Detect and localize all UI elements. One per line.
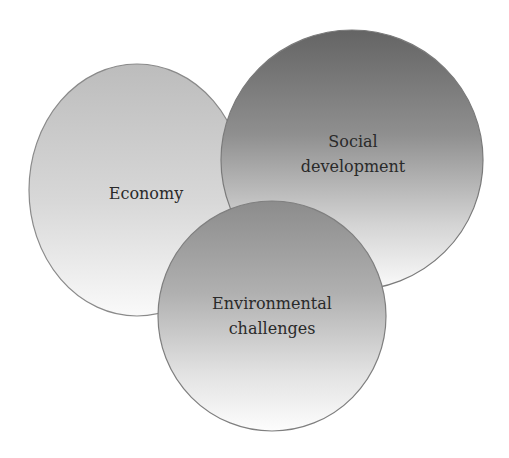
environmental-challenges-label-line2: challenges: [229, 319, 316, 338]
social-development-label-line1: Social: [328, 132, 377, 151]
circle-environmental-challenges: Environmental challenges: [158, 201, 386, 431]
venn-diagram: Economy Social development Environmental…: [0, 0, 509, 458]
environmental-challenges-shape: [158, 201, 386, 431]
environmental-challenges-label-line1: Environmental: [212, 294, 332, 313]
economy-label: Economy: [109, 184, 183, 203]
social-development-label-line2: development: [301, 157, 406, 176]
